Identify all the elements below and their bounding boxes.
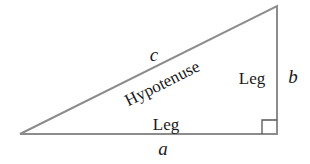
horizontal-leg-label: Leg bbox=[153, 115, 180, 134]
hypotenuse-label: Hypotenuse bbox=[122, 57, 203, 110]
vertical-leg-variable-label: b bbox=[288, 66, 298, 87]
vertical-leg-label: Leg bbox=[239, 69, 266, 88]
right-angle-marker bbox=[262, 120, 277, 134]
hypotenuse-variable-label: c bbox=[150, 44, 159, 65]
right-triangle-diagram: c Hypotenuse Leg b Leg a bbox=[0, 0, 310, 164]
horizontal-leg-variable-label: a bbox=[158, 138, 168, 159]
